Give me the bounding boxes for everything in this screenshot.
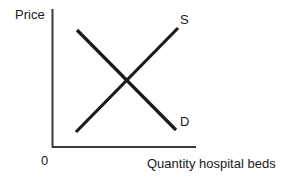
y-axis-label: Price	[15, 8, 45, 22]
supply-demand-figure: Price 0 S D Quantity hospital beds	[0, 0, 297, 180]
origin-label: 0	[41, 154, 48, 168]
x-axis-label: Quantity hospital beds	[147, 157, 276, 171]
demand-curve-label: D	[180, 115, 189, 129]
supply-curve-label: S	[180, 13, 189, 27]
